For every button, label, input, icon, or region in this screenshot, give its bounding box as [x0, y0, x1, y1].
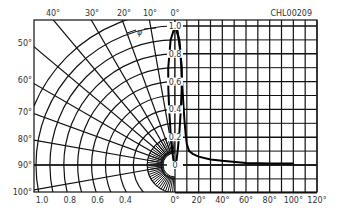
- radiation-pattern-chart: 0°10°20°30°40°50°60°70°80°90°100°1.00.80…: [0, 0, 341, 217]
- svg-text:0.6: 0.6: [169, 78, 182, 87]
- svg-text:40°: 40°: [215, 196, 229, 205]
- svg-text:0.8: 0.8: [63, 196, 76, 205]
- chart-code-label: CHL00209: [270, 9, 312, 18]
- svg-text:80°: 80°: [263, 196, 277, 205]
- svg-text:0.4: 0.4: [119, 196, 132, 205]
- svg-text:60°: 60°: [239, 196, 253, 205]
- svg-text:1.0: 1.0: [36, 196, 49, 205]
- svg-text:0°: 0°: [170, 196, 179, 205]
- svg-text:120°: 120°: [307, 196, 326, 205]
- svg-text:100°: 100°: [284, 196, 303, 205]
- svg-text:0.8: 0.8: [169, 50, 182, 59]
- svg-text:100°: 100°: [13, 188, 32, 197]
- svg-text:50°: 50°: [18, 39, 32, 48]
- svg-text:20°: 20°: [192, 196, 206, 205]
- svg-text:0: 0: [172, 161, 177, 170]
- svg-text:40°: 40°: [46, 9, 60, 18]
- svg-text:φ: φ: [137, 28, 143, 37]
- svg-text:1.0: 1.0: [169, 22, 182, 31]
- svg-text:60°: 60°: [18, 76, 32, 85]
- svg-text:30°: 30°: [85, 9, 99, 18]
- svg-text:10°: 10°: [143, 9, 157, 18]
- svg-text:0.2: 0.2: [169, 133, 182, 142]
- svg-text:70°: 70°: [18, 108, 32, 117]
- svg-text:0.6: 0.6: [91, 196, 104, 205]
- svg-text:90°: 90°: [18, 161, 32, 170]
- svg-text:20°: 20°: [117, 9, 131, 18]
- polar-grid: [0, 0, 328, 217]
- svg-text:0°: 0°: [170, 9, 179, 18]
- svg-text:80°: 80°: [18, 135, 32, 144]
- svg-text:0.4: 0.4: [169, 105, 182, 114]
